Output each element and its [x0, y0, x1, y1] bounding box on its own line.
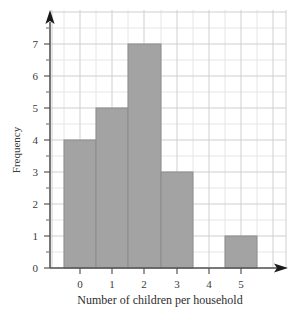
bar-category-1 — [96, 108, 128, 268]
y-tick-label-5: 5 — [33, 102, 39, 114]
x-tick-label-0: 0 — [77, 278, 83, 290]
x-tick-label-3: 3 — [174, 278, 180, 290]
histogram-chart: 0 1 2 3 4 5 6 7 0 1 2 3 4 5 Frequency Nu… — [0, 0, 299, 310]
y-tick-label-2: 2 — [33, 198, 39, 210]
x-axis-label: Number of children per household — [77, 293, 242, 307]
x-tick-label-5: 5 — [238, 278, 244, 290]
chart-svg: 0 1 2 3 4 5 6 7 0 1 2 3 4 5 Frequency Nu… — [0, 0, 299, 310]
x-tick-label-1: 1 — [109, 278, 115, 290]
y-tick-label-4: 4 — [33, 134, 39, 146]
y-axis-label: Frequency — [10, 126, 22, 173]
bar-category-3 — [161, 172, 193, 268]
x-tick-label-2: 2 — [141, 278, 147, 290]
bar-category-2 — [128, 44, 161, 268]
y-tick-label-3: 3 — [33, 166, 39, 178]
y-tick-label-1: 1 — [33, 230, 39, 242]
bar-category-5 — [225, 236, 257, 268]
y-tick-label-7: 7 — [33, 38, 39, 50]
x-tick-label-4: 4 — [206, 278, 212, 290]
y-tick-label-6: 6 — [33, 70, 39, 82]
bar-category-0 — [64, 140, 96, 268]
y-tick-label-0: 0 — [33, 262, 39, 274]
